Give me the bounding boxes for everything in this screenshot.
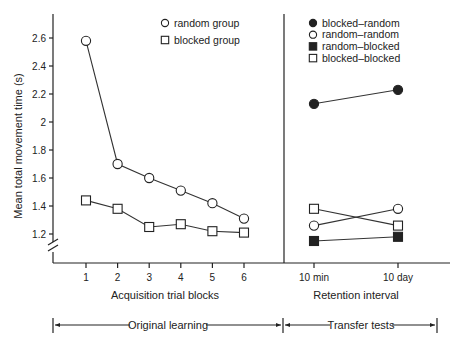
filled-circle-marker-icon	[393, 85, 402, 94]
legend-label: random–blocked	[322, 40, 400, 52]
series-line	[314, 90, 398, 104]
x-tick-label: 10 min	[299, 272, 329, 283]
x-tick-label: 2	[115, 272, 121, 283]
y-axis-title: Mean total movement time (s)	[12, 73, 24, 219]
x-axis-title-retention: Retention interval	[313, 289, 399, 301]
open-square-marker-icon	[176, 220, 185, 229]
x-tick-label: 3	[146, 272, 152, 283]
legend-label: blocked–blocked	[322, 52, 400, 64]
open-circle-marker-icon	[145, 173, 154, 182]
open-square-marker-icon	[208, 227, 217, 236]
open-square-marker-icon	[310, 204, 319, 213]
open-square-marker-icon	[82, 196, 91, 205]
x-axis-title-acquisition: Acquisition trial blocks	[111, 289, 220, 301]
open-circle-marker-icon	[309, 221, 318, 230]
y-tick-label: 2	[40, 117, 46, 128]
x-tick-label: 5	[210, 272, 216, 283]
filled-square-marker-icon	[309, 43, 316, 50]
open-square-marker-icon	[240, 228, 249, 237]
series-line	[86, 41, 244, 219]
legend-acquisition: random groupblocked group	[161, 17, 240, 46]
open-square-marker-icon	[161, 36, 168, 43]
arrow-left-icon	[55, 323, 60, 327]
legend-item: random group	[161, 17, 239, 29]
y-tick-label: 1.8	[32, 145, 46, 156]
series-1	[309, 85, 402, 108]
open-circle-marker-icon	[208, 199, 217, 208]
y-tick-label: 2.2	[32, 89, 46, 100]
y-tick-label: 2.6	[32, 33, 46, 44]
x-ticks: 12345610 min10 day	[83, 263, 413, 283]
series-1	[310, 232, 403, 245]
legends: random groupblocked groupblocked–randomr…	[161, 17, 400, 64]
series-line	[86, 200, 244, 232]
legend-item: blocked–random	[309, 17, 399, 29]
series-line	[314, 237, 398, 241]
bracket-label: Original learning	[128, 319, 208, 331]
bracket-label: Transfer tests	[328, 319, 395, 331]
bracket-transfer-tests: Transfer tests	[285, 318, 437, 333]
series-group	[81, 36, 402, 245]
legend-label: blocked–random	[322, 17, 400, 29]
y-ticks: 1.21.41.61.822.22.42.6	[32, 33, 53, 240]
open-circle-marker-icon	[393, 204, 402, 213]
x-tick-label: 4	[178, 272, 184, 283]
filled-square-marker-icon	[394, 232, 403, 241]
legend-item: random–blocked	[309, 40, 399, 52]
x-tick-label: 10 day	[383, 272, 413, 283]
arrow-right-icon	[276, 323, 281, 327]
y-tick-label: 2.4	[32, 61, 46, 72]
legend-item: blocked–blocked	[309, 52, 400, 64]
chart: 1.21.41.61.822.22.42.6 12345610 min10 da…	[0, 0, 461, 344]
open-circle-marker-icon	[113, 159, 122, 168]
y-tick-label: 1.2	[32, 229, 46, 240]
open-circle-marker-icon	[81, 36, 90, 45]
axis-break-mark	[48, 245, 58, 251]
filled-circle-marker-icon	[309, 99, 318, 108]
series-0	[81, 36, 248, 223]
filled-square-marker-icon	[310, 237, 319, 246]
legend-item: blocked group	[161, 34, 240, 46]
y-tick-label: 1.6	[32, 173, 46, 184]
x-tick-label: 1	[83, 272, 89, 283]
series-0	[82, 196, 249, 237]
open-square-marker-icon	[145, 223, 154, 232]
open-circle-marker-icon	[161, 19, 168, 26]
y-tick-label: 1.4	[32, 201, 46, 212]
legend-label: blocked group	[174, 34, 240, 46]
legend-label: random group	[174, 17, 240, 29]
open-circle-marker-icon	[309, 31, 316, 38]
legend-retention: blocked–randomrandom–randomrandom–blocke…	[309, 17, 400, 64]
bracket-original-learning: Original learning	[53, 318, 281, 333]
legend-label: random–random	[322, 28, 399, 40]
open-circle-marker-icon	[239, 214, 248, 223]
open-circle-marker-icon	[176, 186, 185, 195]
legend-item: random–random	[309, 28, 399, 40]
series-1	[310, 204, 403, 230]
open-square-marker-icon	[113, 204, 122, 213]
x-tick-label: 6	[241, 272, 247, 283]
arrow-right-icon	[430, 323, 435, 327]
arrow-left-icon	[285, 323, 290, 327]
filled-circle-marker-icon	[309, 19, 316, 26]
open-square-marker-icon	[309, 54, 316, 61]
open-square-marker-icon	[394, 221, 403, 230]
